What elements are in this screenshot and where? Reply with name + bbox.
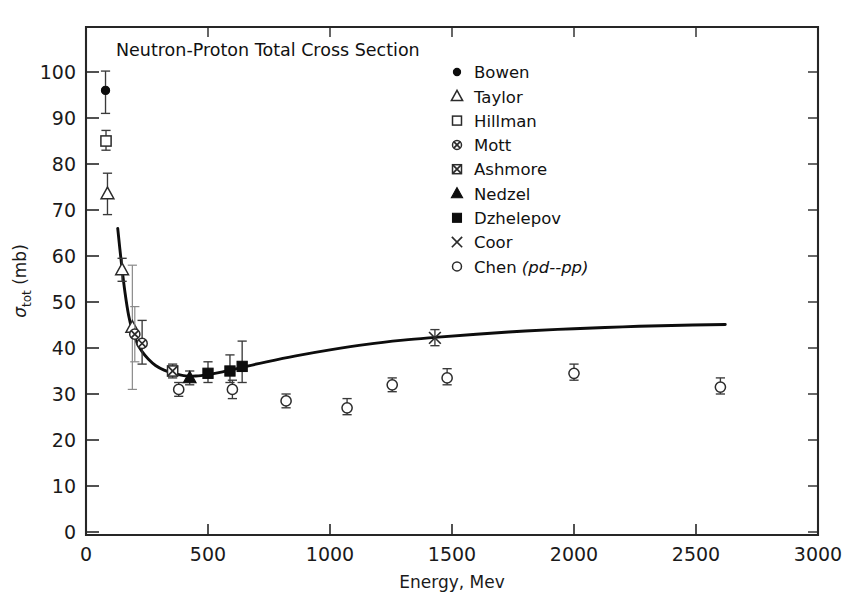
data-point-dzhelepov xyxy=(237,361,247,371)
legend-marker-open-circle xyxy=(453,262,462,271)
chart-figure: 050010001500200025003000 010203040506070… xyxy=(0,0,849,596)
legend-label: Chen (pd--pp) xyxy=(474,258,589,277)
y-axis-label-subscript: tot xyxy=(20,290,34,307)
x-tick-label-1500: 1500 xyxy=(428,543,476,565)
data-point-mott xyxy=(137,338,147,348)
legend-label: Ashmore xyxy=(474,160,547,179)
y-tick-label-30: 30 xyxy=(52,383,76,405)
x-tick-label-3000: 3000 xyxy=(794,543,842,565)
x-tick-label-2500: 2500 xyxy=(672,543,720,565)
legend-label: Taylor xyxy=(473,88,523,107)
series-ashmore xyxy=(168,364,178,378)
data-point-chen-pd-pp xyxy=(281,396,291,406)
y-tick-label-40: 40 xyxy=(52,337,76,359)
data-point-chen-pd-pp xyxy=(174,384,184,394)
data-point-chen-pd-pp xyxy=(442,373,452,383)
y-tick-label-20: 20 xyxy=(52,429,76,451)
chart-background xyxy=(0,0,849,596)
x-axis-label: Energy, Mev xyxy=(399,572,505,592)
data-point-chen-pd-pp xyxy=(227,384,237,394)
legend-label: Dzhelepov xyxy=(474,209,561,228)
data-point-dzhelepov xyxy=(203,368,213,378)
x-tick-label-0: 0 xyxy=(80,543,92,565)
y-tick-label-10: 10 xyxy=(52,475,76,497)
legend-marker-filled-square xyxy=(453,213,462,222)
legend-label: Bowen xyxy=(474,63,530,82)
y-axis-label-unit: (mb) xyxy=(10,244,30,290)
legend-label: Mott xyxy=(474,136,512,155)
legend-marker-crossed-circle xyxy=(453,140,462,149)
chart-title: Neutron-Proton Total Cross Section xyxy=(116,40,420,60)
data-point-dzhelepov xyxy=(225,366,235,376)
data-point-mott xyxy=(130,329,140,339)
data-point-ashmore xyxy=(168,366,178,376)
y-tick-label-80: 80 xyxy=(52,153,76,175)
y-tick-label-0: 0 xyxy=(64,521,76,543)
legend-label: Coor xyxy=(474,233,513,252)
x-tick-label-1000: 1000 xyxy=(306,543,354,565)
y-tick-label-100: 100 xyxy=(40,61,76,83)
legend-label: Hillman xyxy=(474,112,537,131)
y-tick-label-90: 90 xyxy=(52,107,76,129)
data-point-chen-pd-pp xyxy=(569,368,579,378)
y-tick-label-60: 60 xyxy=(52,245,76,267)
data-point-chen-pd-pp xyxy=(715,382,725,392)
x-tick-label-2000: 2000 xyxy=(550,543,598,565)
data-point-chen-pd-pp xyxy=(387,380,397,390)
legend-marker-crossed-square xyxy=(453,165,462,174)
data-point-bowen xyxy=(101,86,109,94)
data-point-chen-pd-pp xyxy=(342,403,352,413)
y-tick-label-70: 70 xyxy=(52,199,76,221)
data-point-hillman xyxy=(101,136,111,146)
legend-label: Nedzel xyxy=(474,185,530,204)
y-tick-label-50: 50 xyxy=(52,291,76,313)
legend-marker-filled-circle xyxy=(453,68,460,75)
x-tick-label-500: 500 xyxy=(190,543,226,565)
legend-marker-open-square xyxy=(453,116,462,125)
cross-section-scatter-chart: 050010001500200025003000 010203040506070… xyxy=(0,0,849,596)
